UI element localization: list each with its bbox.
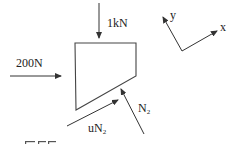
free-body-diagram: 1kN 200N uN2 N2 y x — [0, 0, 235, 144]
friction-label: uN2 — [88, 121, 107, 136]
y-axis-arrow-icon — [163, 17, 182, 51]
x-axis-arrow-icon — [182, 31, 217, 51]
force-200N-label: 200N — [16, 56, 43, 70]
force-friction: uN2 — [67, 100, 118, 136]
force-1kN: 1kN — [99, 3, 128, 38]
x-axis-label: x — [220, 20, 226, 34]
cropped-caption — [25, 141, 56, 144]
normal-label: N2 — [138, 101, 151, 116]
coordinate-axes: y x — [163, 8, 226, 51]
force-normal: N2 — [121, 89, 151, 134]
y-axis-label: y — [170, 8, 176, 22]
force-200N: 200N — [10, 56, 61, 76]
force-1kN-label: 1kN — [107, 16, 128, 30]
